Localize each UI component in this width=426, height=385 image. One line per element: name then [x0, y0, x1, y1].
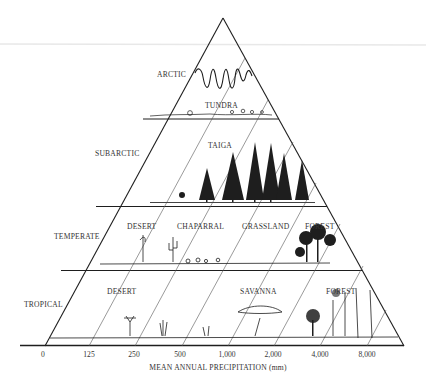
axis-tick-0: 0: [41, 350, 45, 359]
tundra-ground-sketch: [150, 109, 272, 116]
temperate-vegetation-sketch: [100, 235, 330, 264]
axis-tick-1000: 1,000: [218, 350, 235, 359]
biome-pyramid-diagram: ARCTIC TUNDRA SUBARCTIC TAIGA TEMPERATE …: [0, 0, 426, 385]
zone-label-arctic: ARCTIC: [157, 70, 186, 79]
zone-label-temperate: TEMPERATE: [54, 232, 100, 241]
axis-tick-4000: 4,000: [311, 350, 328, 359]
biome-label-tundra: TUNDRA: [205, 101, 238, 110]
x-axis-title: MEAN ANNUAL PRECIPITATION (mm): [149, 363, 286, 372]
pyramid-drawing: [0, 0, 426, 385]
scan-artifact-line: [0, 44, 426, 45]
biome-label-chaparral: CHAPARRAL: [177, 222, 224, 231]
axis-tick-500: 500: [174, 350, 185, 359]
axis-tick-250: 250: [128, 350, 139, 359]
biome-label-taiga: TAIGA: [208, 141, 232, 150]
biome-label-tropical-desert: DESERT: [107, 287, 136, 296]
biome-label-temperate-forest: FOREST: [305, 222, 334, 231]
axis-tick-2000: 2,000: [264, 350, 281, 359]
tropical-forest-sketch: [306, 289, 340, 336]
axis-tick-125: 125: [83, 350, 94, 359]
zone-label-subarctic: SUBARCTIC: [95, 149, 139, 158]
biome-label-grassland: GRASSLAND: [242, 222, 289, 231]
zone-label-tropical: TROPICAL: [24, 300, 63, 309]
arctic-ice-squiggle-icon: [195, 69, 252, 88]
taiga-trees-sketch: [150, 142, 315, 203]
biome-label-tropical-forest: FOREST: [326, 287, 355, 296]
biome-label-temperate-desert: DESERT: [127, 222, 156, 231]
biome-label-savanna: SAVANNA: [240, 287, 277, 296]
axis-tick-8000: 8,000: [358, 350, 375, 359]
